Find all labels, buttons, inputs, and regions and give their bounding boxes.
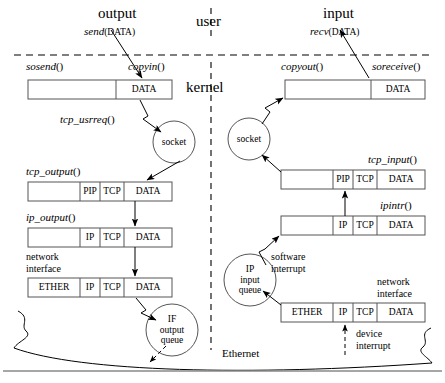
ipintr-cell-data: DATA	[377, 221, 425, 231]
ethernet-cable-right-squiggle	[421, 328, 432, 363]
input-heading: input	[323, 6, 354, 21]
ipintr-cell-tcp: TCP	[353, 221, 377, 231]
ether-in-cell-data: DATA	[377, 308, 425, 318]
tcp-output-cell-tcp: TCP	[100, 187, 124, 197]
socket-label-output: socket	[154, 137, 194, 148]
ip-input-queue-line3: queue	[225, 285, 275, 296]
if-output-queue-label: IF output queue	[147, 314, 197, 346]
ether-cell-tcp: TCP	[100, 283, 124, 293]
ip-input-queue-line1: IP	[225, 264, 275, 275]
arrow-tcp-input-to-socket	[262, 155, 281, 172]
if-output-queue-line3: queue	[147, 335, 197, 346]
ether-in-cell-ether: ETHER	[281, 308, 333, 318]
ipintr-cell-ip: IP	[333, 221, 353, 231]
ip-output-cell-ip: IP	[80, 233, 100, 243]
network-interface-line2-right: interface	[377, 288, 412, 300]
network-interface-line2-left: interface	[26, 263, 61, 275]
software-interrupt-label: software interrupt	[271, 251, 305, 274]
sosend-cell-data: DATA	[116, 85, 172, 95]
send-fn-name: send	[84, 25, 104, 37]
device-interrupt-label: device interrupt	[356, 328, 390, 351]
arrow-socket-to-soreceive	[262, 98, 283, 124]
tcp-input-cell-data: DATA	[377, 175, 425, 185]
ethernet-cable-left-squiggle	[14, 311, 28, 348]
if-output-queue-line2: output	[147, 325, 197, 336]
soreceive-cell-data: DATA	[371, 85, 425, 95]
network-interface-line1-right: network	[377, 276, 412, 288]
recv-fn-name: recv	[310, 25, 329, 37]
ether-in-cell-ip: IP	[333, 308, 353, 318]
recv-fn-arg: (DATA)	[329, 27, 360, 37]
tcp-output-cell-pip: PIP	[80, 187, 100, 197]
recv-syscall-label: recv(DATA)	[310, 26, 359, 38]
copyout-fn-label: copyout	[281, 61, 323, 72]
ip-output-fn-label: ip_output	[26, 212, 76, 223]
network-interface-label-right: network interface	[377, 276, 412, 299]
tcp-output-fn-label: tcp_output	[26, 166, 80, 177]
ether-cell-ip: IP	[80, 283, 100, 293]
tcp-input-fn-label: tcp_input	[368, 154, 417, 165]
user-layer-label: user	[196, 14, 221, 29]
tcp-input-cell-pip: PIP	[333, 175, 353, 185]
kernel-layer-label: kernel	[186, 80, 223, 95]
ip-input-queue-line2: input	[225, 275, 275, 286]
software-interrupt-line1: software	[271, 251, 305, 263]
ip-input-queue-label: IP input queue	[225, 264, 275, 296]
ip-output-cell-data: DATA	[124, 233, 172, 243]
network-interface-line1-left: network	[26, 251, 61, 263]
ether-cell-data: DATA	[124, 283, 172, 293]
tcp-input-cell-tcp: TCP	[353, 175, 377, 185]
tcpip-stack-diagram: output send(DATA) user input recv(DATA) …	[0, 0, 445, 383]
tcp-usrreq-fn-label: tcp_usrreq	[60, 114, 115, 125]
ethernet-layer-label: Ethernet	[222, 348, 259, 359]
if-output-queue-line1: IF	[147, 314, 197, 325]
sosend-fn-label: sosend	[26, 61, 63, 72]
send-syscall-label: send(DATA)	[84, 26, 135, 38]
software-interrupt-line2: interrupt	[271, 263, 305, 275]
output-heading: output	[98, 6, 136, 21]
arrow-socket-to-tcp-output	[147, 161, 180, 180]
diagram-canvas	[0, 0, 445, 383]
tcp-output-cell-data: DATA	[124, 187, 172, 197]
ether-cell-ether: ETHER	[28, 283, 80, 293]
network-interface-label-left: network interface	[26, 251, 61, 274]
ether-in-cell-tcp: TCP	[353, 308, 377, 318]
arrow-sosend-to-socket	[140, 100, 161, 132]
copyin-fn-label: copyin	[128, 61, 165, 72]
device-interrupt-line1: device	[356, 328, 390, 340]
ipintr-fn-label: ipintr	[380, 200, 412, 211]
soreceive-fn-label: soreceive	[372, 61, 420, 72]
device-interrupt-line2: interrupt	[356, 340, 390, 352]
socket-label-input: socket	[229, 134, 269, 145]
send-fn-arg: (DATA)	[104, 27, 135, 37]
ip-output-cell-tcp: TCP	[100, 233, 124, 243]
